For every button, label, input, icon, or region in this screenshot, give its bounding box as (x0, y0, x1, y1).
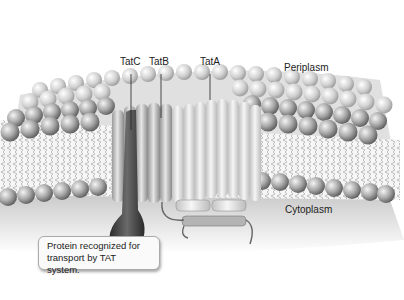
callout-line-2: transport by TAT system. (47, 252, 151, 276)
cytoplasm-label: Cytoplasm (285, 204, 332, 215)
tata-label: TatA (200, 56, 220, 67)
tatb-label: TatB (149, 56, 169, 67)
tat-diagram: TatC TatB TatA Periplasm Cytoplasm Prote… (0, 0, 404, 300)
periplasm-label: Periplasm (284, 62, 328, 73)
protein-callout: Protein recognized for transport by TAT … (38, 236, 160, 270)
callout-line-1: Protein recognized for (47, 240, 151, 252)
tatc-label: TatC (120, 56, 141, 67)
